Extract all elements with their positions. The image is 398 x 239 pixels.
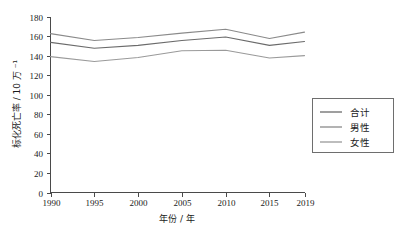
y-axis-group: 020406080100120140160180 bbox=[30, 13, 51, 199]
line-chart: 020406080100120140160180 199019952000200… bbox=[0, 0, 398, 239]
series-line-女性 bbox=[51, 50, 305, 61]
y-tick-label: 160 bbox=[30, 32, 44, 42]
series-line-男性 bbox=[51, 29, 305, 40]
x-tick-label: 1990 bbox=[43, 198, 62, 208]
y-axis-title: 标化死亡率 / 10 万 ⁻¹ bbox=[11, 59, 22, 148]
y-tick-label: 40 bbox=[34, 149, 44, 159]
y-tick-label: 20 bbox=[34, 169, 44, 179]
y-tick-label: 180 bbox=[30, 13, 44, 23]
data-series-group bbox=[51, 29, 305, 61]
chart-figure: 020406080100120140160180 199019952000200… bbox=[0, 0, 398, 239]
chart-legend: 合计男性女性 bbox=[313, 99, 394, 153]
y-tick-label: 60 bbox=[34, 130, 44, 140]
y-tick-label: 100 bbox=[30, 91, 44, 101]
x-tick-label: 1995 bbox=[86, 198, 105, 208]
y-tick-label: 140 bbox=[30, 52, 44, 62]
x-tick-label: 2015 bbox=[261, 198, 280, 208]
x-tick-marks bbox=[52, 193, 306, 197]
series-line-合计 bbox=[51, 37, 305, 48]
x-tick-labels: 1990199520002005201020152019 bbox=[43, 198, 316, 208]
x-axis-group: 1990199520002005201020152019 bbox=[43, 193, 316, 209]
x-tick-label: 2019 bbox=[297, 198, 316, 208]
x-axis-title: 年份 / 年 bbox=[159, 213, 195, 224]
x-tick-label: 2010 bbox=[218, 198, 237, 208]
legend-label-女性[interactable]: 女性 bbox=[350, 137, 370, 148]
x-tick-label: 2000 bbox=[130, 198, 149, 208]
y-tick-labels: 020406080100120140160180 bbox=[30, 13, 44, 199]
legend-label-合计[interactable]: 合计 bbox=[350, 107, 370, 118]
y-tick-label: 120 bbox=[30, 71, 44, 81]
legend-label-男性[interactable]: 男性 bbox=[350, 122, 370, 133]
y-tick-marks bbox=[47, 18, 51, 194]
y-tick-label: 80 bbox=[34, 110, 44, 120]
x-tick-label: 2005 bbox=[174, 198, 193, 208]
